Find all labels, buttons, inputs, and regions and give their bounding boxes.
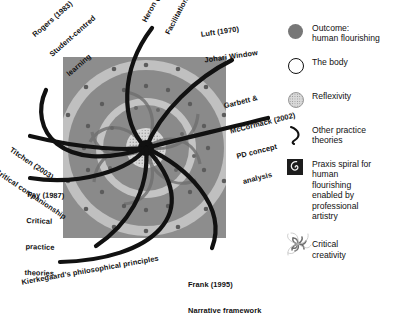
legend-label-praxis-spiral: Praxis spiral for human flourishing enab… — [312, 158, 371, 221]
dotted-circle-icon — [286, 90, 312, 112]
praxis-spiral-icon — [286, 158, 312, 180]
legend-item-outcome: Outcome: human flourishing — [286, 22, 417, 44]
legend-label-body: The body — [312, 56, 348, 67]
legend-item-reflexivity: Reflexivity — [286, 90, 417, 112]
luft-label: Luft (1970) Johari Window — [198, 7, 261, 83]
legend-label-other-practice-theories: Other practice theories — [312, 124, 366, 146]
open-circle-icon — [286, 56, 312, 78]
legend-item-praxis-spiral: Praxis spiral for human flourishing enab… — [286, 158, 417, 221]
legend: Outcome: human flourishing The body Refl… — [286, 22, 417, 272]
legend-label-critical-creativity: Critical creativity — [312, 233, 346, 260]
legend-item-other-practice-theories: Other practice theories — [286, 124, 417, 146]
critical-creativity-icon — [286, 233, 312, 255]
legend-item-body: The body — [286, 56, 417, 78]
curved-line-icon — [286, 124, 312, 146]
legend-label-reflexivity: Reflexivity — [312, 90, 351, 101]
frank-label: Frank (1995) Narrative framework — [188, 264, 261, 317]
legend-label-outcome: Outcome: human flourishing — [312, 22, 380, 44]
filled-circle-icon — [286, 22, 312, 44]
praxis-spiral-diagram: Rogers (1983) Student-centred learning H… — [0, 0, 270, 295]
legend-item-critical-creativity: Critical creativity — [286, 233, 417, 260]
